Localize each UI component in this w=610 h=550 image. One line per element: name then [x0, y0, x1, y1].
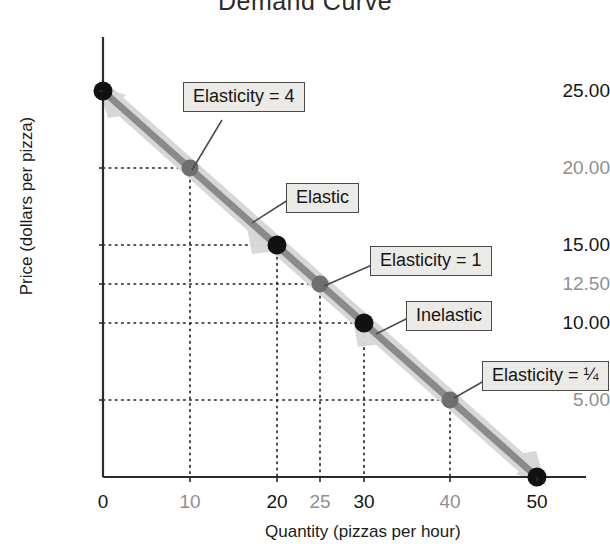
y-axis-title: Price (dollars per pizza) — [17, 91, 37, 321]
leader-elasticity-quarter — [454, 381, 484, 398]
leader-elastic — [252, 200, 288, 223]
leader-elasticity-4 — [192, 120, 222, 170]
y-tick-label-10: 10.00 — [512, 313, 610, 332]
y-tick-label-15: 15.00 — [512, 235, 610, 254]
x-tick-label-0: 0 — [83, 492, 123, 511]
data-point-20-15 — [268, 236, 287, 255]
y-tick-label-12-5: 12.50 — [512, 274, 610, 293]
demand-curve-chart: Demand Curve — [0, 0, 610, 550]
leader-elasticity-1 — [324, 265, 372, 286]
callout-elasticity-1: Elasticity = 1 — [370, 246, 492, 276]
x-tick-label-40: 40 — [430, 492, 470, 511]
x-tick-label-10: 10 — [170, 492, 210, 511]
callout-elasticity-one-quarter: Elasticity = ¼ — [482, 361, 609, 391]
data-point-30-10 — [355, 314, 374, 333]
y-tick-label-25: 25.00 — [512, 81, 610, 100]
callout-inelastic: Inelastic — [406, 301, 492, 331]
callout-elastic: Elastic — [286, 183, 359, 213]
x-tick-label-25: 25 — [300, 492, 340, 511]
x-tick-label-50: 50 — [517, 492, 557, 511]
callout-elasticity-one-quarter-text: Elasticity = — [492, 365, 584, 385]
x-tick-label-20: 20 — [257, 492, 297, 511]
x-axis-title: Quantity (pizzas per hour) — [265, 522, 461, 542]
y-tick-label-5: 5.00 — [512, 390, 610, 409]
data-point-40-5 — [442, 392, 459, 409]
callout-elasticity-4: Elasticity = 4 — [183, 82, 305, 112]
x-tick-label-30: 30 — [344, 492, 384, 511]
data-point-25-12-5 — [312, 276, 329, 293]
fraction-one-quarter: ¼ — [584, 364, 599, 385]
leader-inelastic — [376, 318, 408, 334]
y-tick-label-20: 20.00 — [512, 158, 610, 177]
